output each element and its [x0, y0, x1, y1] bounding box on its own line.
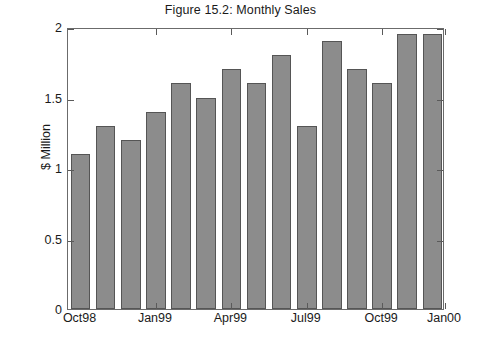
x-tick-label-group: Oct98Jan99Apr99Jul99Oct99Jan00	[0, 312, 481, 334]
y-tick-label: 2	[55, 22, 62, 35]
chart-title: Figure 15.2: Monthly Sales	[0, 3, 481, 17]
bar	[372, 83, 392, 309]
y-axis-tick-right	[437, 29, 443, 30]
x-axis-tick-top	[307, 29, 308, 35]
x-tick-label: Jan99	[138, 312, 172, 325]
y-tick-label-group: 00.511.52	[24, 28, 62, 310]
x-tick-label: Apr99	[214, 312, 247, 325]
bar-series	[68, 29, 443, 309]
y-axis-tick	[68, 100, 74, 101]
plot-area	[67, 28, 444, 310]
figure-container: Figure 15.2: Monthly Sales $ Million 00.…	[0, 0, 481, 339]
y-tick-label: 1.5	[45, 93, 62, 106]
bar	[171, 83, 191, 309]
y-tick-label: 0.5	[45, 234, 62, 247]
x-axis-tick-bottom	[307, 303, 308, 309]
y-axis-tick-right	[437, 100, 443, 101]
bar	[397, 34, 417, 309]
x-axis-tick-bottom	[231, 303, 232, 309]
y-axis-tick-right	[437, 241, 443, 242]
bar	[146, 112, 166, 309]
x-axis-tick-top	[445, 29, 446, 35]
y-axis-tick	[68, 29, 74, 30]
y-tick-label: 1	[55, 163, 62, 176]
bar	[71, 154, 91, 309]
x-axis-tick-bottom	[382, 303, 383, 309]
x-tick-label: Oct99	[364, 312, 397, 325]
y-axis-tick-right	[437, 170, 443, 171]
x-tick-label: Jul99	[291, 312, 321, 325]
bar	[247, 83, 267, 309]
bar	[272, 55, 292, 309]
bar	[423, 34, 443, 309]
x-axis-tick-bottom	[156, 303, 157, 309]
x-axis-tick-top	[156, 29, 157, 35]
bar	[121, 140, 141, 309]
x-axis-tick-top	[231, 29, 232, 35]
y-axis-tick	[68, 241, 74, 242]
x-axis-tick-top	[382, 29, 383, 35]
bar	[322, 41, 342, 309]
x-axis-tick-bottom	[445, 303, 446, 309]
bar	[222, 69, 242, 309]
bar	[297, 126, 317, 309]
x-tick-label: Oct98	[63, 312, 96, 325]
y-axis-tick	[68, 170, 74, 171]
bar	[196, 98, 216, 310]
bar	[347, 69, 367, 309]
x-tick-label: Jan00	[427, 312, 461, 325]
bar	[96, 126, 116, 309]
